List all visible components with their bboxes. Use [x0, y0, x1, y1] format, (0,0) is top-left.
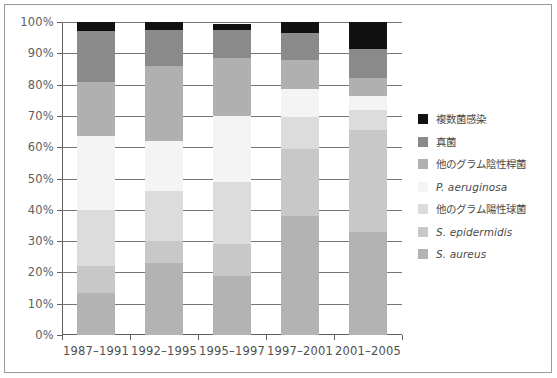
y-axis-tick — [57, 272, 62, 273]
bar-segment — [145, 263, 183, 335]
bar-segment — [145, 141, 183, 191]
legend-item-label: S. aureus — [436, 249, 486, 260]
y-axis-tick — [57, 22, 62, 23]
x-axis-tick — [334, 335, 335, 340]
legend-color-swatch — [418, 227, 428, 237]
x-axis-tick — [266, 335, 267, 340]
stacked-bar-chart: 0%10%20%30%40%50%60%70%80%90%100% 1987–1… — [0, 0, 557, 378]
stacked-bar — [349, 22, 387, 335]
bar-segment — [213, 244, 251, 275]
bar-segment — [213, 276, 251, 335]
y-axis-tick — [57, 116, 62, 117]
x-axis-tick-label: 2001–2005 — [335, 344, 401, 358]
bar-segment — [77, 22, 115, 31]
legend-color-swatch — [418, 204, 428, 214]
bar-segment — [77, 82, 115, 137]
bar-segment — [349, 232, 387, 335]
bar-segment — [281, 60, 319, 90]
bar-segment — [281, 149, 319, 216]
stacked-bar — [145, 22, 183, 335]
legend-item[interactable]: 他のグラム陰性桿菌 — [418, 153, 550, 176]
legend-color-swatch — [418, 182, 428, 192]
legend: 複数菌感染真菌他のグラム陰性桿菌P. aeruginosa他のグラム陽性球菌S.… — [418, 108, 550, 266]
y-axis-tick-label: 70% — [28, 109, 54, 123]
stacked-bar — [77, 22, 115, 335]
x-axis-tick — [130, 335, 131, 340]
y-axis-tick-label: 50% — [28, 172, 54, 186]
y-axis-tick — [57, 85, 62, 86]
x-axis-tick — [198, 335, 199, 340]
legend-color-swatch — [418, 114, 428, 124]
bar-segment — [281, 33, 319, 60]
bar-segment — [145, 241, 183, 263]
legend-item-label: P. aeruginosa — [436, 182, 507, 193]
bar-segment — [213, 30, 251, 58]
legend-item[interactable]: 複数菌感染 — [418, 108, 550, 131]
bar-segment — [145, 191, 183, 241]
x-axis-tick — [62, 335, 63, 340]
y-axis-tick — [57, 304, 62, 305]
legend-color-swatch — [418, 249, 428, 259]
bar-segment — [349, 110, 387, 130]
x-axis-tick-label: 1995–1997 — [199, 344, 265, 358]
bar-segment — [77, 293, 115, 335]
legend-item[interactable]: P. aeruginosa — [418, 176, 550, 199]
y-axis-tick-label: 0% — [35, 328, 54, 342]
x-axis-tick — [402, 335, 403, 340]
y-axis-tick-label: 40% — [28, 203, 54, 217]
stacked-bar — [213, 22, 251, 335]
bar-segment — [213, 116, 251, 182]
legend-item-label: 複数菌感染 — [436, 114, 486, 125]
plot-area: 0%10%20%30%40%50%60%70%80%90%100% 1987–1… — [62, 22, 402, 335]
bar-segment — [281, 22, 319, 33]
y-axis-tick-label: 60% — [28, 140, 54, 154]
y-axis-tick — [57, 147, 62, 148]
bar-segment — [77, 266, 115, 293]
y-axis-tick — [57, 53, 62, 54]
y-axis-tick-label: 30% — [28, 234, 54, 248]
legend-item-label: 他のグラム陽性球菌 — [436, 204, 526, 215]
x-axis-tick-label: 1987–1991 — [63, 344, 129, 358]
bar-segment — [77, 136, 115, 210]
stacked-bar — [281, 22, 319, 335]
legend-color-swatch — [418, 137, 428, 147]
legend-item[interactable]: 真菌 — [418, 131, 550, 154]
y-axis-tick — [57, 179, 62, 180]
legend-item-label: 真菌 — [436, 137, 456, 148]
bar-segment — [281, 117, 319, 148]
legend-color-swatch — [418, 159, 428, 169]
bar-segment — [349, 78, 387, 95]
bar-segment — [213, 182, 251, 245]
bar-segment — [349, 130, 387, 232]
y-axis-tick — [57, 241, 62, 242]
legend-item[interactable]: 他のグラム陽性球菌 — [418, 198, 550, 221]
bar-segment — [281, 89, 319, 117]
bar-segment — [213, 58, 251, 116]
gridline — [62, 335, 402, 336]
bar-segment — [349, 22, 387, 49]
x-axis-tick-label: 1997–2001 — [267, 344, 333, 358]
bar-segment — [77, 31, 115, 81]
bar-segment — [349, 49, 387, 79]
bar-segment — [349, 96, 387, 110]
bar-segment — [77, 210, 115, 266]
y-axis-tick-label: 90% — [28, 46, 54, 60]
x-axis-tick-label: 1992–1995 — [131, 344, 197, 358]
y-axis-tick-label: 100% — [20, 15, 54, 29]
y-axis-tick-label: 80% — [28, 78, 54, 92]
y-axis-tick-label: 20% — [28, 265, 54, 279]
legend-item[interactable]: S. aureus — [418, 243, 550, 266]
legend-item-label: S. epidermidis — [436, 227, 512, 238]
bar-segment — [281, 216, 319, 335]
bar-segment — [145, 30, 183, 66]
legend-item[interactable]: S. epidermidis — [418, 221, 550, 244]
bar-segment — [145, 66, 183, 141]
y-axis-tick-label: 10% — [28, 297, 54, 311]
legend-item-label: 他のグラム陰性桿菌 — [436, 159, 526, 170]
y-axis-tick — [57, 210, 62, 211]
bar-segment — [145, 22, 183, 30]
